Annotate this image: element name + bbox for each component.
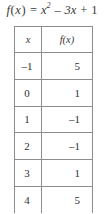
cell-fx-3: –1 <box>42 133 93 160</box>
function-table-figure: f(x) = x2 – 3x + 1 x f(x) –1 5 0 1 1 – <box>0 0 104 213</box>
cell-x-5: 4 <box>15 186 42 213</box>
column-header-fx: f(x) <box>42 27 93 53</box>
table-row: 1 –1 <box>15 106 93 133</box>
cell-x-3: 2 <box>15 133 42 160</box>
cell-x-4: 3 <box>15 160 42 187</box>
minus-sign: – <box>54 3 61 17</box>
table-header-row: x f(x) <box>15 27 93 53</box>
cell-x-1: 0 <box>15 79 42 106</box>
table-row: –1 5 <box>15 53 93 80</box>
cell-x-2: 1 <box>15 106 42 133</box>
constant-term: 1 <box>91 3 97 17</box>
values-table: x f(x) –1 5 0 1 1 –1 2 –1 3 1 <box>14 26 93 213</box>
equals-sign: = <box>30 3 38 17</box>
quadratic-exponent: 2 <box>47 1 51 10</box>
cell-x-0: –1 <box>15 53 42 80</box>
column-header-x: x <box>15 27 42 53</box>
plus-sign: + <box>80 3 88 17</box>
table-row: 2 –1 <box>15 133 93 160</box>
cell-fx-0: 5 <box>42 53 93 80</box>
quadratic-term-variable: x <box>41 3 47 17</box>
table-row: 3 1 <box>15 160 93 187</box>
cell-fx-5: 5 <box>42 186 93 213</box>
function-definition-title: f(x) = x2 – 3x + 1 <box>0 1 104 19</box>
table-header: x f(x) <box>15 27 93 53</box>
cell-fx-4: 1 <box>42 160 93 187</box>
table-row: 4 5 <box>15 186 93 213</box>
linear-term: 3x <box>65 3 77 17</box>
column-header-fx-label: f(x) <box>60 34 75 45</box>
paren-close: ) <box>21 3 26 17</box>
cell-fx-2: –1 <box>42 106 93 133</box>
table-body: –1 5 0 1 1 –1 2 –1 3 1 4 5 <box>15 53 93 214</box>
table-row: 0 1 <box>15 79 93 106</box>
cell-fx-1: 1 <box>42 79 93 106</box>
